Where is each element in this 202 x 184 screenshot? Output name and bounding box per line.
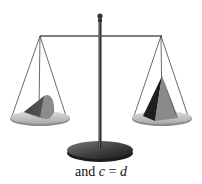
caption-variable-d: d bbox=[120, 164, 127, 179]
balance-scale bbox=[0, 0, 202, 184]
caption-equals: = bbox=[105, 164, 120, 179]
caption-prefix: and bbox=[75, 164, 99, 179]
pyramid-shape bbox=[143, 76, 178, 121]
finial-knob bbox=[97, 13, 102, 18]
scale-pole bbox=[97, 13, 102, 148]
figure-caption: and c = d bbox=[0, 164, 202, 180]
